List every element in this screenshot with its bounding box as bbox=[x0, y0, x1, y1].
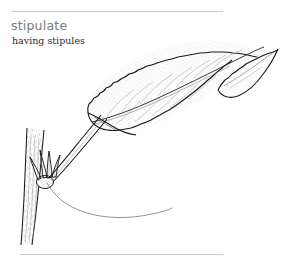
dictionary-entry-page: stipulate having stipules bbox=[0, 0, 295, 265]
leader-line bbox=[47, 183, 172, 218]
bottom-divider bbox=[20, 254, 223, 255]
stipulate-leaf-diagram bbox=[0, 0, 295, 265]
